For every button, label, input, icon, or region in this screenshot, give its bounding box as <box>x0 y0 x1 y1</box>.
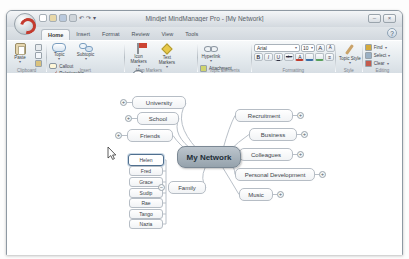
group-topic-elements: Hyperlink ▾ Attachment Notes Image <box>198 41 251 74</box>
copy-icon[interactable] <box>35 52 42 59</box>
ribbon-tab-row: Home Insert Format Review View Tools ? <box>7 27 402 40</box>
subtopic-nazia[interactable]: Nazia <box>129 219 163 229</box>
expand-colleagues-icon[interactable]: + <box>297 151 304 158</box>
icon-markers-icon <box>137 43 139 54</box>
paste-dropdown-icon: ▾ <box>19 60 21 64</box>
font-size-dropdown-icon: ▾ <box>311 46 313 50</box>
text-markers-icon <box>161 43 172 54</box>
paste-icon <box>15 43 26 55</box>
paste-button[interactable]: Paste ▾ <box>9 42 31 64</box>
subtopic-icon <box>79 43 93 52</box>
expand-business-icon[interactable]: + <box>301 131 308 138</box>
window-controls: – × <box>368 14 396 23</box>
topic-university[interactable]: University <box>132 96 186 109</box>
central-topic[interactable]: My Network <box>177 146 241 168</box>
subtopic-dropdown-icon: ▾ <box>85 57 87 61</box>
clear-dropdown-icon: ▾ <box>387 62 389 66</box>
topic-icon <box>52 43 66 52</box>
collapse-family-icon[interactable]: − <box>158 184 165 191</box>
tab-insert[interactable]: Insert <box>70 29 96 40</box>
topic-style-brush-icon <box>345 44 354 55</box>
mouse-cursor-icon <box>107 147 117 161</box>
window-title: Mindjet MindManager Pro - [My Network] <box>47 15 362 22</box>
subtopic-tango[interactable]: Tango <box>129 209 163 219</box>
application-orb-button[interactable] <box>14 13 36 35</box>
clipboard-small-buttons <box>35 42 42 67</box>
grow-font-button[interactable]: A <box>316 44 325 52</box>
tab-view[interactable]: View <box>156 29 180 40</box>
topic-button[interactable]: Topic ▾ <box>49 42 69 61</box>
select-icon <box>365 52 372 59</box>
expand-personal-development-icon[interactable]: + <box>319 171 326 178</box>
hyperlink-button[interactable]: Hyperlink ▾ <box>200 42 222 63</box>
topic-school[interactable]: School <box>137 112 179 125</box>
group-formatting: Arial ▾ 10 ▾ A A B I U ab <box>252 41 335 74</box>
clear-icon <box>365 60 372 67</box>
close-button[interactable]: × <box>383 14 396 23</box>
alignment-button[interactable]: ≡ <box>325 53 334 61</box>
bold-button[interactable]: B <box>254 53 263 61</box>
app-window: ↶ ↷ ▾ Mindjet MindManager Pro - [My Netw… <box>6 10 403 255</box>
font-row: Arial ▾ 10 ▾ A A <box>254 44 335 52</box>
format-painter-icon[interactable] <box>35 60 42 67</box>
icon-markers-button[interactable]: Icon Markers ▾ <box>127 42 151 68</box>
find-label: Find <box>374 45 383 50</box>
subtopic-fred[interactable]: Fred <box>129 166 163 176</box>
font-family-dropdown-icon: ▾ <box>295 46 297 50</box>
line-color-button[interactable] <box>315 53 324 61</box>
strikethrough-button[interactable]: abc <box>284 53 294 61</box>
subtopic-button[interactable]: Subtopic ▾ <box>74 42 98 61</box>
tab-tools[interactable]: Tools <box>179 29 204 40</box>
cut-icon[interactable] <box>35 44 42 51</box>
expand-university-icon[interactable]: + <box>120 99 127 106</box>
topic-personal-development[interactable]: Personal Development <box>235 168 315 181</box>
topic-style-button[interactable]: Topic Style ▾ <box>338 42 362 65</box>
group-style: Topic Style ▾ Style <box>336 41 362 74</box>
font-color-button[interactable]: A <box>295 53 304 61</box>
map-layer: My Network University + School + Friends… <box>7 73 402 255</box>
tab-home[interactable]: Home <box>41 29 70 40</box>
topic-recruitment[interactable]: Recruitment <box>235 109 293 122</box>
select-dropdown-icon: ▾ <box>388 54 390 58</box>
new-document-icon[interactable] <box>39 14 47 22</box>
clear-button[interactable]: Clear ▾ <box>365 60 391 67</box>
formatting-controls: Arial ▾ 10 ▾ A A B I U ab <box>254 42 335 61</box>
tab-format[interactable]: Format <box>96 29 125 40</box>
expand-music-icon[interactable]: + <box>277 191 284 198</box>
tab-review[interactable]: Review <box>125 29 155 40</box>
topic-business[interactable]: Business <box>249 128 297 141</box>
expand-recruitment-icon[interactable]: + <box>297 112 304 119</box>
group-clipboard: Paste ▾ Clipboard <box>7 41 46 74</box>
find-button[interactable]: Find ▾ <box>365 44 391 51</box>
subtopic-helen[interactable]: Helen <box>128 154 164 166</box>
group-map-markers: Icon Markers ▾ Text Markers ▾ Task Info … <box>125 41 197 74</box>
subtopic-rae[interactable]: Rae <box>129 198 163 208</box>
group-editing: Find ▾ Select ▾ Clear ▾ Editing <box>363 41 402 74</box>
editing-buttons: Find ▾ Select ▾ Clear ▾ <box>365 42 391 67</box>
map-canvas[interactable]: My Network University + School + Friends… <box>7 73 402 255</box>
topic-friends[interactable]: Friends <box>127 129 173 142</box>
hyperlink-icon <box>204 45 219 54</box>
minimize-button[interactable]: – <box>368 14 381 23</box>
group-insert: Topic ▾ Subtopic ▾ Callout Relationship <box>47 41 123 74</box>
italic-button[interactable]: I <box>264 53 273 61</box>
screenshot-root: ↶ ↷ ▾ Mindjet MindManager Pro - [My Netw… <box>0 0 409 259</box>
help-button[interactable]: ? <box>387 28 397 38</box>
topic-colleagues[interactable]: Colleagues <box>239 148 293 161</box>
format-buttons-row: B I U abc A ≡ <box>254 53 335 61</box>
underline-button[interactable]: U <box>274 53 283 61</box>
text-markers-button[interactable]: Text Markers ▾ <box>155 42 179 69</box>
topic-music[interactable]: Music <box>239 188 273 201</box>
font-family-value: Arial <box>257 45 267 51</box>
font-size-select[interactable]: 10 ▾ <box>301 44 315 52</box>
topic-style-dropdown-icon: ▾ <box>349 61 351 65</box>
fill-color-button[interactable] <box>305 53 314 61</box>
select-label: Select <box>374 53 387 58</box>
expand-friends-icon[interactable]: + <box>115 132 122 139</box>
select-button[interactable]: Select ▾ <box>365 52 391 59</box>
shrink-font-button[interactable]: A <box>326 44 335 52</box>
ribbon: Paste ▾ Clipboard Topic ▾ <box>7 40 402 75</box>
font-family-select[interactable]: Arial ▾ <box>254 44 300 52</box>
expand-school-icon[interactable]: + <box>125 115 132 122</box>
topic-family[interactable]: Family <box>168 181 206 194</box>
